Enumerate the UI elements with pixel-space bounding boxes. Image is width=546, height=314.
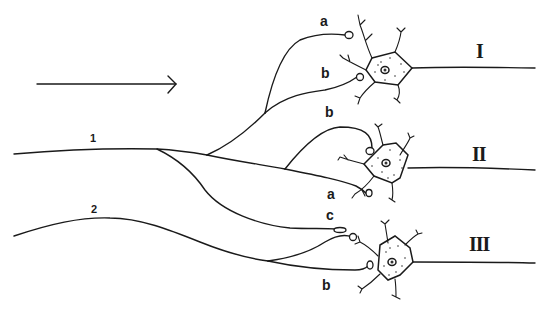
synapse-I-b: [357, 74, 364, 81]
synapse-III-upper: [350, 234, 357, 241]
axon-1: [14, 34, 372, 229]
neuron-label-II: II: [472, 144, 486, 164]
direction-arrow: [37, 76, 176, 93]
synapse-label-II-b: b: [325, 105, 334, 119]
neuron-label-I: I: [476, 41, 483, 61]
synapse-III-c: [334, 228, 346, 233]
axon-label-1: 1: [90, 133, 96, 144]
neuron-label-III: III: [469, 234, 489, 254]
synapse-III-b: [367, 261, 373, 269]
neuron-III: [334, 220, 535, 299]
synapse-label-II-a: a: [327, 187, 335, 201]
synapse-I-a: [345, 32, 353, 39]
synapse-label-III-c: c: [326, 208, 334, 222]
axon-label-2: 2: [91, 204, 97, 215]
neuron-II: [338, 124, 535, 202]
synapse-label-III-b: b: [322, 278, 331, 292]
synapse-label-I-a: a: [320, 14, 328, 28]
neuron-synapse-diagram: [0, 0, 546, 314]
axon-2: [14, 218, 368, 270]
synapse-II-a: [366, 190, 372, 197]
synapse-II-b: [366, 148, 374, 155]
neuron-I: [340, 15, 535, 104]
synapse-label-I-b: b: [321, 66, 330, 80]
